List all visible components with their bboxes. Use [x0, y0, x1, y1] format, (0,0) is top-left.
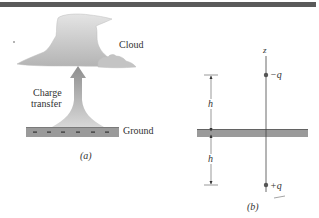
ground-bar-b: [197, 129, 308, 137]
lower-distance-label: h: [208, 153, 213, 164]
charge-transfer-label-line2: transfer: [31, 98, 62, 109]
z-axis-label: z: [263, 45, 267, 56]
positive-charge-dot: [264, 183, 268, 187]
ground-bar-a: [26, 127, 119, 137]
cloud-icon: [13, 14, 136, 68]
positive-charge-label: +q: [270, 180, 282, 191]
cloud-label: Cloud: [119, 39, 143, 50]
ground-label: Ground: [123, 125, 154, 136]
upper-distance-label: h: [208, 98, 213, 109]
charge-transfer-label-line1: Charge: [33, 87, 62, 98]
panel-b-caption: (b): [247, 201, 259, 212]
negative-charge-label: −q: [270, 69, 282, 80]
panel-a-caption: (a): [80, 150, 92, 161]
negative-charge-dot: [264, 73, 268, 77]
